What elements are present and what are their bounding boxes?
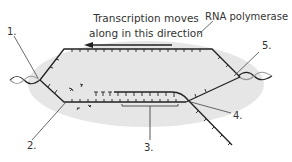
rna-polymerase-label: RNA polymerase bbox=[205, 12, 288, 22]
rna-polymerase-shape bbox=[28, 41, 264, 127]
callout-5: 5. bbox=[262, 41, 272, 51]
callout-3: 3. bbox=[144, 143, 154, 153]
transcription-diagram bbox=[0, 0, 292, 162]
caption-line-1: Transcription moves bbox=[84, 13, 208, 24]
caption-line-2: along in this direction bbox=[76, 28, 216, 39]
callout-4: 4. bbox=[233, 111, 243, 121]
callout-2: 2. bbox=[27, 141, 37, 151]
callout-1: 1. bbox=[7, 27, 17, 37]
